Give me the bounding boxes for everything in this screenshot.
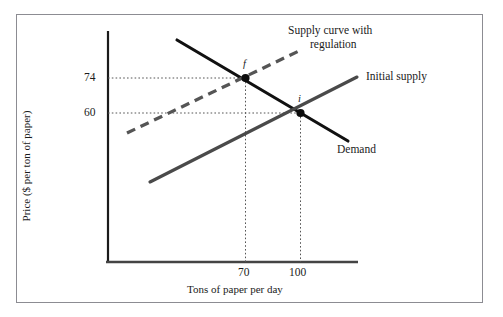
x-tick-label-70: 70 (238, 266, 250, 280)
y-tick-label-74: 74 (84, 71, 96, 85)
figure-container: Price ($ per ton of paper) Tons of paper… (0, 0, 503, 317)
x-tick-label-100: 100 (289, 266, 306, 280)
point-marker-f (241, 74, 249, 82)
supply-regulation-label-line2: regulation (288, 38, 372, 52)
supply-with-regulation-label: Supply curve with regulation (288, 24, 372, 51)
point-label-i: i (298, 93, 301, 105)
point-marker-i (296, 109, 304, 117)
supply-regulation-label-line1: Supply curve with (288, 24, 372, 36)
x-axis-title: Tons of paper per day (160, 283, 310, 295)
point-label-f: f (243, 58, 246, 70)
chart-canvas (0, 0, 503, 317)
y-tick-label-60: 60 (84, 106, 96, 120)
initial-supply-label: Initial supply (366, 70, 427, 84)
demand-label: Demand (337, 143, 376, 157)
y-axis-title: Price ($ per ton of paper) (20, 91, 32, 241)
